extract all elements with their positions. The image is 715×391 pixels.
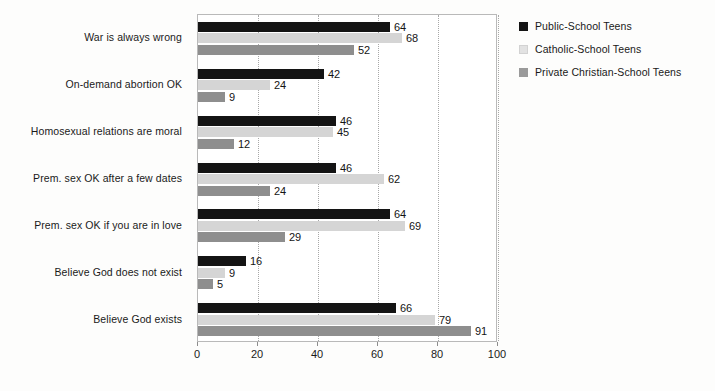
gridline <box>498 15 499 341</box>
bar <box>198 256 246 266</box>
bar-value-label: 42 <box>324 69 340 79</box>
category-label: On-demand abortion OK <box>0 78 182 90</box>
bar-value-label: 24 <box>270 186 286 196</box>
bar <box>198 279 213 289</box>
bar <box>198 268 225 278</box>
bar-value-label: 66 <box>396 303 412 313</box>
bar <box>198 127 333 137</box>
x-tick-label: 80 <box>431 348 443 360</box>
legend-swatch-icon <box>519 45 528 54</box>
bar <box>198 221 405 231</box>
bar-value-label: 62 <box>384 174 400 184</box>
legend-label: Private Christian-School Teens <box>535 66 681 78</box>
bar-group: 1695 <box>198 256 496 289</box>
category-label: Homosexual relations are moral <box>0 125 182 137</box>
x-tick <box>497 342 498 346</box>
bar-group: 667991 <box>198 303 496 336</box>
x-tick <box>317 342 318 346</box>
bar <box>198 22 390 32</box>
bar-value-label: 46 <box>336 163 352 173</box>
legend-swatch-icon <box>519 68 528 77</box>
x-tick-label: 20 <box>251 348 263 360</box>
bar-group: 42249 <box>198 69 496 102</box>
bar <box>198 209 390 219</box>
category-label: Prem. sex OK if you are in love <box>0 219 182 231</box>
bar-value-label: 64 <box>390 22 406 32</box>
x-tick <box>377 342 378 346</box>
x-tick-label: 40 <box>311 348 323 360</box>
x-tick-label: 0 <box>194 348 200 360</box>
bar-group: 464512 <box>198 116 496 149</box>
bar-chart-figure: War is always wrongOn-demand abortion OK… <box>0 0 715 391</box>
bar-group: 646852 <box>198 22 496 55</box>
legend-item[interactable]: Private Christian-School Teens <box>519 66 715 78</box>
bar-value-label: 45 <box>333 127 349 137</box>
x-tick <box>437 342 438 346</box>
bar <box>198 92 225 102</box>
bar-group: 646929 <box>198 209 496 242</box>
bar-value-label: 52 <box>354 45 370 55</box>
bar <box>198 186 270 196</box>
x-axis: 020406080100 <box>197 342 497 368</box>
category-label: Believe God does not exist <box>0 266 182 278</box>
bar <box>198 139 234 149</box>
bar <box>198 116 336 126</box>
bar-value-label: 24 <box>270 80 286 90</box>
bar <box>198 326 471 336</box>
bar <box>198 45 354 55</box>
bar-value-label: 16 <box>246 256 262 266</box>
bar-group: 466224 <box>198 163 496 196</box>
category-label: Believe God exists <box>0 313 182 325</box>
category-axis-labels: War is always wrongOn-demand abortion OK… <box>0 12 190 342</box>
x-tick-label: 60 <box>371 348 383 360</box>
bar-value-label: 12 <box>234 139 250 149</box>
bar-value-label: 9 <box>225 92 235 102</box>
x-tick <box>257 342 258 346</box>
bar-value-label: 91 <box>471 326 487 336</box>
bar <box>198 232 285 242</box>
legend-label: Public-School Teens <box>535 20 632 32</box>
bar-value-label: 46 <box>336 116 352 126</box>
category-label: War is always wrong <box>0 31 182 43</box>
bar-value-label: 9 <box>225 268 235 278</box>
bar <box>198 69 324 79</box>
x-tick <box>197 342 198 346</box>
bar <box>198 33 402 43</box>
legend-item[interactable]: Catholic-School Teens <box>519 43 715 55</box>
bar-value-label: 69 <box>405 221 421 231</box>
category-label: Prem. sex OK after a few dates <box>0 172 182 184</box>
bar <box>198 163 336 173</box>
bar-value-label: 68 <box>402 33 418 43</box>
x-tick-label: 100 <box>488 348 506 360</box>
bar-value-label: 29 <box>285 232 301 242</box>
legend-item[interactable]: Public-School Teens <box>519 20 715 32</box>
plot-area: 646852422494645124662246469291695667991 <box>197 14 497 342</box>
bar <box>198 80 270 90</box>
bar-value-label: 79 <box>435 315 451 325</box>
legend-label: Catholic-School Teens <box>535 43 641 55</box>
bar-value-label: 5 <box>213 279 223 289</box>
legend-swatch-icon <box>519 22 528 31</box>
bar <box>198 174 384 184</box>
figure-caption <box>0 375 715 391</box>
bar <box>198 315 435 325</box>
chart-legend: Public-School TeensCatholic-School Teens… <box>519 20 715 89</box>
bar <box>198 303 396 313</box>
bar-value-label: 64 <box>390 209 406 219</box>
